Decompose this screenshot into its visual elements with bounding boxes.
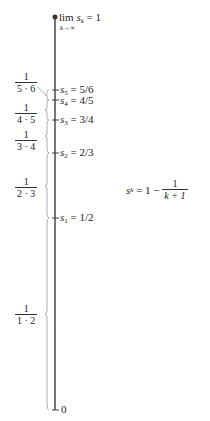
label-s2: s2 = 2/3 xyxy=(60,147,94,162)
increment-fraction-4: 14 · 5 xyxy=(15,102,37,125)
brace-4 xyxy=(45,100,49,120)
brace-3 xyxy=(45,120,49,153)
label-s3: s3 = 3/4 xyxy=(60,114,94,129)
increment-fraction-5: 15 · 6 xyxy=(15,71,37,94)
label-zero: 0 xyxy=(61,404,67,415)
increment-fraction-3: 13 · 4 xyxy=(15,129,37,152)
increment-fraction-1: 11 · 2 xyxy=(15,303,37,326)
limit-subscript: k→∞ xyxy=(60,24,75,32)
leader-line xyxy=(37,87,45,94)
formula: sk = 1 − 1 k + 1 xyxy=(126,178,188,201)
brace-1 xyxy=(45,218,49,410)
increment-fraction-2: 12 · 3 xyxy=(15,176,37,199)
formula-fraction: 1 k + 1 xyxy=(162,178,187,201)
brace-2 xyxy=(45,153,49,218)
brace-5 xyxy=(45,90,49,100)
label-s1: s1 = 1/2 xyxy=(60,212,94,227)
label-s4: s4 = 4/5 xyxy=(60,95,94,110)
limit-point xyxy=(53,15,58,20)
number-line-diagram xyxy=(0,0,210,421)
